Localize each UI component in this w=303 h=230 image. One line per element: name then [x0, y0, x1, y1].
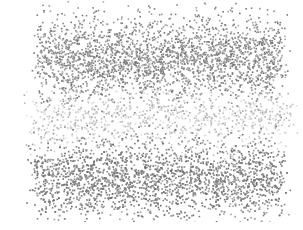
point-cloud-figure [0, 0, 303, 222]
figure-caption [0, 224, 303, 230]
bottom-band [26, 122, 291, 222]
top-band [32, 1, 291, 135]
